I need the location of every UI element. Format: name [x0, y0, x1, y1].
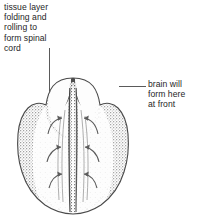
- label-brain-will-form-here: brain will form here at front: [148, 79, 196, 110]
- neural-groove: [68, 82, 77, 212]
- embryo-illustration: [14, 76, 132, 216]
- neural-plate-figure: tissue layer folding and rolling to form…: [0, 0, 197, 218]
- embryo-body: [14, 76, 132, 216]
- label-tissue-layer-folding: tissue layer folding and rolling to form…: [4, 2, 70, 53]
